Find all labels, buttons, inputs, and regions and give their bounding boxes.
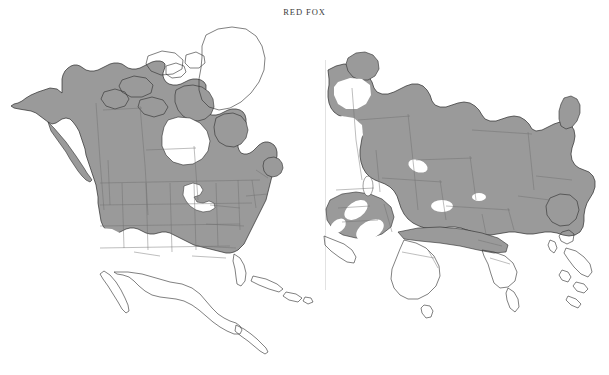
outline-arabia [324, 236, 356, 263]
map-panel-eurasia [322, 0, 609, 375]
outline-southern-island [566, 296, 581, 308]
map-figure: RED FOX [0, 0, 609, 375]
outline-baja-california [100, 271, 129, 313]
outline-sri-lanka [421, 305, 433, 318]
outline-malay-peninsula [506, 288, 519, 312]
outline-indochina [482, 250, 517, 288]
unshaded-southern-plains [144, 254, 186, 282]
range-polygon-kamchatka [559, 96, 580, 129]
outline-japan-kyushu [559, 270, 571, 282]
map-panel-north-america [0, 0, 322, 375]
outline-central-america [235, 325, 268, 354]
outline-florida [233, 254, 246, 286]
outline-taiwan [548, 240, 557, 253]
outline-arctic-island-5 [166, 63, 186, 78]
range-shading-north-america [11, 61, 283, 253]
outline-hispaniola [283, 292, 302, 302]
outline-cuba [251, 276, 283, 292]
unshaded-inner-asia-gap [472, 193, 486, 201]
outline-island-small-1 [303, 297, 313, 304]
range-polygon-newfoundland [263, 157, 283, 177]
outline-japan-island-small [573, 282, 588, 293]
unshaded-caspian-sea [363, 176, 373, 196]
north-america-map-svg [0, 0, 322, 375]
outline-mexico [114, 272, 242, 334]
unshaded-taklamakan-gap [431, 200, 453, 212]
range-polygon-ungava [214, 113, 248, 147]
eurasia-map-svg [322, 0, 609, 375]
outline-india [391, 240, 440, 299]
